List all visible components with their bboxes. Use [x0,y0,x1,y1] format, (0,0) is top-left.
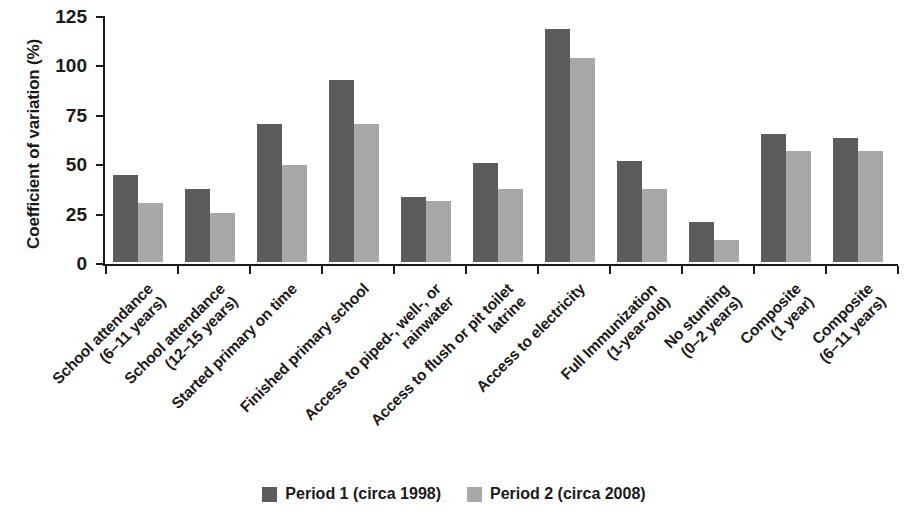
bar [617,161,642,262]
x-tick-mark [105,266,107,274]
bar [185,189,210,262]
bar [426,201,451,262]
x-tick-mark [249,266,251,274]
x-axis-category-label: No stunting(0–2 years) [661,280,746,365]
x-axis-category-label: Composite(6–11 years) [803,280,890,367]
x-tick-mark [537,266,539,274]
bar [786,151,811,262]
y-tick-label: 75 [27,106,87,125]
bar [282,165,307,262]
y-axis-title: Coefficient of variation (%) [24,14,44,274]
bar [689,222,714,262]
x-axis-line [103,264,898,266]
x-axis-category-label: Access to flush or pit toiletlatrine [367,280,529,442]
bar [257,124,282,262]
bar [545,29,570,262]
y-tick-label: 100 [27,56,87,75]
bar [714,240,739,262]
legend-entry: Period 1 (circa 1998) [262,485,441,503]
legend-label: Period 1 (circa 1998) [285,485,441,503]
bar [833,138,858,262]
y-tick-mark [96,263,104,265]
x-tick-mark [825,266,827,274]
legend-label: Period 2 (circa 2008) [490,485,646,503]
bar [858,151,883,262]
y-axis-line [103,16,105,265]
x-tick-mark [321,266,323,274]
x-tick-mark [393,266,395,274]
x-axis-category-label: School attendance(6–11 years) [49,280,169,400]
bar-chart-figure: Coefficient of variation (%) 02550751001… [0,0,908,516]
x-axis-category-label: Full Immunization(1-year-old) [557,280,673,396]
y-tick-label: 50 [27,155,87,174]
y-tick-mark [96,164,104,166]
legend-swatch [467,487,482,502]
y-tick-label: 25 [27,205,87,224]
x-axis-category-label: Finished primary school [237,280,373,416]
bar [498,189,523,262]
bar [329,80,354,262]
x-tick-mark [609,266,611,274]
y-tick-label: 0 [27,254,87,273]
bar [210,213,235,262]
y-tick-label: 125 [27,7,87,26]
bar [354,124,379,262]
x-axis-category-label: Access to electricity [473,280,589,396]
x-tick-mark [681,266,683,274]
y-tick-mark [96,65,104,67]
x-tick-mark [177,266,179,274]
legend-entry: Period 2 (circa 2008) [467,485,646,503]
y-tick-mark [96,115,104,117]
bar [642,189,667,262]
y-tick-mark [96,16,104,18]
y-tick-mark [96,214,104,216]
bar [570,58,595,262]
x-tick-mark [897,266,899,274]
bar [473,163,498,262]
bar [761,134,786,262]
bar [401,197,426,262]
x-axis-category-label: Started primary on time [168,280,301,413]
bar [138,203,163,262]
x-axis-category-label: School attendance(12–15 years) [121,280,241,400]
plot-area: 0255075100125 [103,16,898,264]
x-tick-mark [465,266,467,274]
x-axis-category-label: Composite(1 year) [737,280,818,361]
x-axis-category-label: Access to piped-, well-, orrainwater [301,280,458,437]
bar [113,175,138,262]
x-tick-mark [753,266,755,274]
chart-legend: Period 1 (circa 1998)Period 2 (circa 200… [0,485,908,503]
legend-swatch [262,487,277,502]
